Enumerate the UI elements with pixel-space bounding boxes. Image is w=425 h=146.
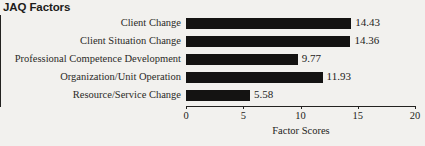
bar-value-resource-service-change: 5.58 [254, 87, 273, 102]
x-tick-label-15: 15 [346, 109, 370, 123]
chart-title: JAQ Factors [3, 1, 70, 13]
x-tick-label-0: 0 [174, 109, 198, 123]
bar-value-professional-competence-development: 9.77 [302, 51, 321, 66]
bar-value-organization-unit-operation: 11.93 [327, 69, 351, 84]
x-axis-title: Factor Scores [186, 125, 416, 136]
chart-figure: JAQ Factors Client Change Client Situati… [0, 0, 425, 146]
bar-resource-service-change [186, 90, 250, 101]
category-label-organization-unit-operation: Organization/Unit Operation [0, 70, 181, 84]
bar-organization-unit-operation [186, 72, 323, 83]
x-tick-label-10: 10 [289, 109, 313, 123]
x-tick-label-20: 20 [403, 109, 425, 123]
category-label-client-change: Client Change [0, 16, 181, 30]
x-tick-label-5: 5 [231, 109, 255, 123]
category-label-client-situation-change: Client Situation Change [0, 34, 181, 48]
category-label-professional-competence-development: Professional Competence Development [0, 52, 181, 66]
bar-value-client-change: 14.43 [355, 15, 380, 30]
bar-client-situation-change [186, 36, 350, 47]
bar-value-client-situation-change: 14.36 [354, 33, 379, 48]
bar-professional-competence-development [186, 54, 298, 65]
bar-client-change [186, 18, 351, 29]
category-label-resource-service-change: Resource/Service Change [0, 88, 181, 102]
